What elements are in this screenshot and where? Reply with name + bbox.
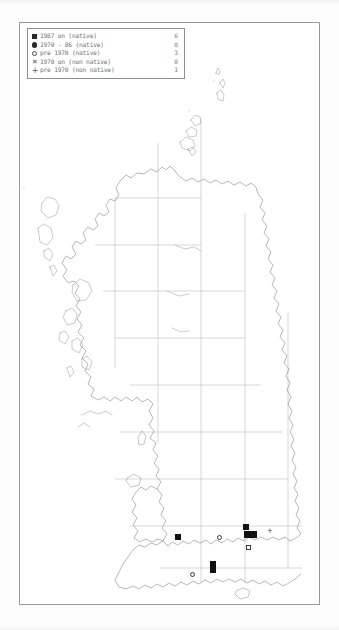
- scan-edge-top: [0, 0, 339, 4]
- coastline-layer: [20, 23, 319, 604]
- legend-label: 1987 on (native): [40, 32, 166, 41]
- coastline-orkney: [180, 115, 201, 156]
- legend-row: pre 1970 (native) 3: [31, 49, 180, 58]
- coastline-south-england: [205, 574, 301, 586]
- open-circle-icon: [31, 49, 40, 57]
- legend-label: 1970 - 86 (native): [40, 41, 166, 50]
- legend-row: 1970 - 86 (native) 0: [31, 41, 180, 50]
- plus-icon: +: [31, 67, 40, 75]
- legend-count: 3: [166, 49, 180, 58]
- legend-box: 1987 on (native) 6 1970 - 86 (native) 0 …: [27, 28, 185, 79]
- map-canvas: · · · › +: [20, 23, 319, 604]
- legend-row: ✕ 1970 on (non native) 0: [31, 58, 180, 67]
- coastline-great-britain: [62, 166, 301, 546]
- coastline-isle-of-wight: [235, 588, 250, 599]
- data-point-plus: +: [267, 528, 273, 535]
- legend-count: 6: [166, 32, 180, 41]
- island-tick-mark: ·: [213, 78, 215, 84]
- legend-row: + pre 1970 (non native) 1: [31, 66, 180, 75]
- coastline-outer-hebrides: [38, 197, 59, 276]
- filled-circle-icon: [31, 41, 40, 49]
- legend-count: 1: [166, 66, 180, 75]
- legend-row: 1987 on (native) 6: [31, 32, 180, 41]
- page-background: · · · › +: [0, 0, 339, 630]
- coastline-south-west: [115, 541, 205, 589]
- island-tick-mark: ·: [188, 108, 190, 114]
- data-point-filled-square: [210, 567, 216, 573]
- data-point-filled-square: [250, 531, 257, 538]
- legend-label: pre 1970 (non native): [40, 66, 166, 75]
- legend-label: 1970 on (non native): [40, 58, 166, 67]
- legend-count: 0: [166, 58, 180, 67]
- data-point-filled-square: [175, 534, 181, 540]
- filled-square-icon: [31, 32, 40, 40]
- legend-count: 0: [166, 41, 180, 50]
- distribution-map-frame: · · · › +: [19, 22, 320, 605]
- data-point-open-circle: [190, 572, 195, 577]
- coastline-ireland-fragment: [78, 411, 112, 427]
- data-point-filled-square: [243, 524, 249, 530]
- coastline-wales: [132, 486, 163, 542]
- coastline-anglesey: [126, 474, 141, 487]
- data-point-open-circle: [217, 535, 222, 540]
- coastline-firth-detail: [167, 245, 201, 332]
- island-tick-mark: ·: [23, 185, 25, 191]
- coastline-isle-of-man: [138, 431, 146, 445]
- coastline-shetland: [216, 68, 225, 101]
- legend-label: pre 1970 (native): [40, 49, 166, 58]
- data-point-open-square: [246, 545, 251, 550]
- scan-edge-bottom: [0, 625, 339, 630]
- cross-icon: ✕: [31, 58, 40, 66]
